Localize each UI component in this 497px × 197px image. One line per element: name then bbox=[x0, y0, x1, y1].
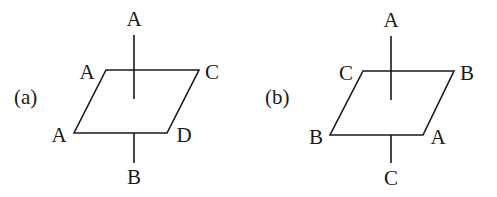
label-axis-bottom-b: C bbox=[384, 166, 398, 190]
label-axis-top-b: A bbox=[383, 8, 399, 32]
diagram-a: (a) A A C A D B bbox=[14, 7, 219, 189]
label-bottom-left-b: B bbox=[309, 125, 323, 149]
label-bottom-right-b: A bbox=[430, 125, 446, 149]
panel-label-a: (a) bbox=[14, 85, 37, 109]
label-axis-bottom-a: B bbox=[127, 165, 141, 189]
figure-canvas: (a) A A C A D B (b) A C B B A C bbox=[0, 0, 497, 197]
diagram-b: (b) A C B B A C bbox=[265, 8, 474, 190]
label-bottom-right-a: D bbox=[176, 123, 191, 147]
label-top-left-a: A bbox=[79, 60, 95, 84]
label-top-left-b: C bbox=[339, 61, 353, 85]
label-bottom-left-a: A bbox=[51, 123, 67, 147]
label-top-right-b: B bbox=[460, 61, 474, 85]
label-top-right-a: C bbox=[205, 60, 219, 84]
panel-label-b: (b) bbox=[265, 85, 290, 109]
label-axis-top-a: A bbox=[126, 7, 142, 31]
